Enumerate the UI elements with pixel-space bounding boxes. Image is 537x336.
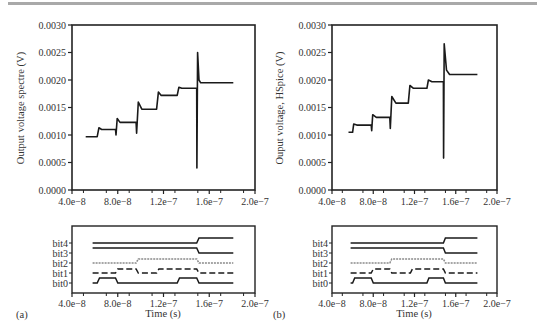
panel-label-a: (a) xyxy=(16,309,28,321)
plot-frame xyxy=(72,25,255,190)
voltage-line xyxy=(86,53,234,169)
x-tick-label: 8.0e−8 xyxy=(359,196,387,207)
y-tick-label: 0.0030 xyxy=(39,20,67,31)
chart-a-voltage: 0.00000.00050.00100.00150.00200.00250.00… xyxy=(39,20,269,208)
bit-label: bit3 xyxy=(52,248,68,259)
xlabel-a: Time (s) xyxy=(145,308,181,320)
y-tick-label: 0.0015 xyxy=(39,102,67,113)
bit1-trace xyxy=(93,269,234,273)
x-tick-label: 8.0e−8 xyxy=(104,196,132,207)
bit-label: bit1 xyxy=(52,268,68,279)
x-tick-label: 2.0e−7 xyxy=(241,196,269,207)
x-tick-label: 4.0e−8 xyxy=(58,196,86,207)
y-tick-label: 0.0010 xyxy=(39,130,67,141)
y-tick-label: 0.0000 xyxy=(299,185,327,196)
x-tick-label: 1.6e−7 xyxy=(195,298,223,309)
y-tick-label: 0.0030 xyxy=(299,20,327,31)
bit3-trace xyxy=(93,248,234,253)
x-tick-label: 8.0e−8 xyxy=(104,298,132,309)
xlabel-b: Time (s) xyxy=(396,308,432,320)
bit-label: bit4 xyxy=(52,238,68,249)
bit4-trace xyxy=(93,238,234,243)
bit4-trace xyxy=(351,238,478,243)
chart-a-bits: bit0bit1bit2bit3bit44.0e−88.0e−81.2e−71.… xyxy=(52,226,268,309)
bit-label: bit3 xyxy=(312,248,328,259)
x-tick-label: 1.2e−7 xyxy=(150,196,178,207)
plot-frame xyxy=(332,25,497,190)
y-tick-label: 0.0005 xyxy=(299,157,327,168)
ylabel-a: Output voltage spectre (V) xyxy=(15,51,27,164)
bit2-trace xyxy=(93,259,234,263)
x-tick-label: 2.0e−7 xyxy=(241,298,269,309)
x-tick-label: 2.0e−7 xyxy=(483,298,511,309)
bit-label: bit0 xyxy=(312,278,328,289)
figure: 0.00000.00050.00100.00150.00200.00250.00… xyxy=(0,0,537,336)
x-tick-label: 1.2e−7 xyxy=(401,196,429,207)
x-tick-label: 1.6e−7 xyxy=(442,196,470,207)
bit0-trace xyxy=(93,278,234,283)
y-tick-label: 0.0015 xyxy=(299,102,327,113)
voltage-line xyxy=(349,44,478,158)
x-tick-label: 1.6e−7 xyxy=(195,196,223,207)
bit-label: bit0 xyxy=(52,278,68,289)
x-tick-label: 4.0e−8 xyxy=(318,196,346,207)
y-tick-label: 0.0025 xyxy=(39,47,67,58)
bit-label: bit4 xyxy=(312,238,328,249)
x-tick-label: 4.0e−8 xyxy=(58,298,86,309)
x-tick-label: 8.0e−8 xyxy=(359,298,387,309)
y-tick-label: 0.0020 xyxy=(39,75,67,86)
bit0-trace xyxy=(351,278,478,283)
y-tick-label: 0.0025 xyxy=(299,47,327,58)
bit1-trace xyxy=(351,269,478,273)
y-tick-label: 0.0020 xyxy=(299,75,327,86)
bit2-trace xyxy=(351,259,478,263)
chart-b-voltage: 0.00000.00050.00100.00150.00200.00250.00… xyxy=(299,20,511,208)
x-tick-label: 2.0e−7 xyxy=(483,196,511,207)
y-tick-label: 0.0010 xyxy=(299,130,327,141)
x-tick-label: 4.0e−8 xyxy=(318,298,346,309)
y-tick-label: 0.0005 xyxy=(39,157,67,168)
bit-label: bit2 xyxy=(312,258,328,269)
y-tick-label: 0.0000 xyxy=(39,185,67,196)
x-tick-label: 1.6e−7 xyxy=(442,298,470,309)
ylabel-b: Ouput voltage, HSpice (V) xyxy=(274,51,286,165)
chart-b-bits: bit0bit1bit2bit3bit44.0e−88.0e−81.2e−71.… xyxy=(312,226,510,309)
bit3-trace xyxy=(351,248,478,253)
panel-label-b: (b) xyxy=(273,309,286,321)
bit-label: bit1 xyxy=(312,268,328,279)
bit-label: bit2 xyxy=(52,258,68,269)
